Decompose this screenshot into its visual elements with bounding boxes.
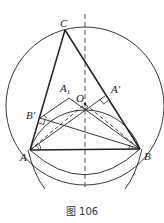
- segment-BB-prime: [40, 118, 140, 149]
- label-A-prime: A′: [111, 84, 120, 95]
- segment-CB: [65, 30, 140, 149]
- right-angle-mark-B-prime: [39, 120, 46, 125]
- label-O: O: [76, 93, 84, 104]
- label-A1-main: A: [60, 82, 67, 94]
- label-A1: A1: [60, 83, 70, 96]
- label-B-prime: B′: [26, 110, 35, 121]
- point-O: [84, 103, 87, 106]
- segment-AO: [30, 104, 85, 150]
- geometry-figure: [0, 0, 164, 223]
- label-A: A: [20, 152, 27, 163]
- segment-AB: [30, 149, 140, 150]
- figure-caption: 图 106: [0, 203, 164, 218]
- right-angle-mark-A1: [44, 115, 47, 119]
- label-B: B: [144, 151, 151, 162]
- right-angle-mark-A-prime: [100, 100, 108, 105]
- segment-AA-prime: [30, 96, 105, 150]
- label-A1-sub: 1: [67, 88, 71, 96]
- segment-A1B: [69, 98, 140, 149]
- label-C: C: [60, 18, 67, 29]
